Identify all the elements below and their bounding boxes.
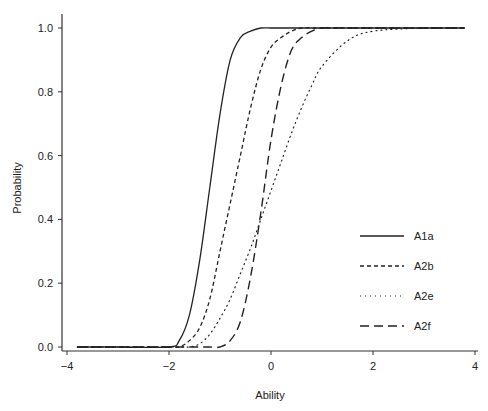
probability-chart: 0.00.20.40.60.81.0−4−2024 A1aA2bA2eA2f A… — [0, 0, 488, 411]
legend-item-a1a: A1a — [360, 230, 434, 242]
legend-item-a2b: A2b — [360, 260, 434, 272]
x-tick-label: 0 — [268, 360, 274, 372]
curve-a1a — [77, 28, 465, 348]
y-tick-label: 0.4 — [38, 213, 53, 225]
x-tick-label: −4 — [61, 360, 74, 372]
x-tick-label: 4 — [472, 360, 478, 372]
y-tick-label: 1.0 — [38, 22, 53, 34]
curves — [77, 28, 465, 348]
y-tick-label: 0.8 — [38, 86, 53, 98]
legend-label: A2b — [414, 260, 434, 272]
y-axis-label: Probability — [11, 162, 23, 214]
legend-label: A1a — [414, 230, 434, 242]
x-tick-label: 2 — [370, 360, 376, 372]
legend-label: A2f — [414, 320, 431, 332]
legend-item-a2e: A2e — [360, 290, 434, 302]
x-axis-label: Ability — [255, 389, 285, 401]
y-tick-label: 0.6 — [38, 150, 53, 162]
y-tick-label: 0.0 — [38, 341, 53, 353]
axes: 0.00.20.40.60.81.0−4−2024 — [38, 14, 478, 372]
legend-label: A2e — [414, 290, 434, 302]
y-tick-label: 0.2 — [38, 277, 53, 289]
curve-a2e — [77, 28, 465, 347]
legend-item-a2f: A2f — [360, 320, 431, 332]
legend: A1aA2bA2eA2f — [360, 230, 434, 332]
curve-a2b — [77, 28, 465, 348]
x-tick-label: −2 — [163, 360, 176, 372]
curve-a2f — [77, 28, 465, 348]
